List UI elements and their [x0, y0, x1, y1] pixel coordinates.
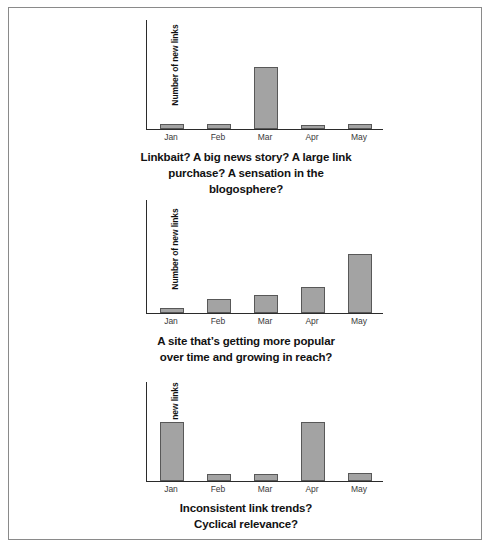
bar-slot-feb [196, 20, 242, 129]
chart-caption-1: Linkbait? A big news story? A large link… [79, 149, 413, 197]
bar-slot-may [337, 200, 383, 313]
x-tick-mar: Mar [242, 132, 288, 142]
bar-slot-mar [243, 382, 289, 481]
bar-feb[interactable] [207, 474, 231, 481]
caption-line: Linkbait? A big news story? A large link [79, 149, 413, 165]
bar-may[interactable] [348, 254, 372, 313]
bar-group [149, 20, 383, 129]
figure-frame: Number of new links Jan Feb Mar Apr May [8, 7, 482, 540]
x-tick-feb: Feb [195, 484, 241, 494]
x-tick-apr: Apr [289, 484, 335, 494]
x-tick-jan: Jan [148, 316, 194, 326]
chart-panel-3: Number of new links Jan Feb Mar Apr May … [9, 376, 483, 539]
bar-chart-1: Number of new links Jan Feb Mar Apr May [9, 12, 483, 140]
x-tick-may: May [336, 132, 382, 142]
chart-panel-2: Number of new links Jan Feb Mar Apr May … [9, 194, 483, 374]
bar-mar[interactable] [254, 67, 278, 129]
caption-line: purchase? A sensation in the [79, 165, 413, 181]
bar-group [149, 200, 383, 313]
chart-panel-1: Number of new links Jan Feb Mar Apr May [9, 12, 483, 190]
x-tick-jan: Jan [148, 484, 194, 494]
bar-mar[interactable] [254, 295, 278, 313]
bar-slot-may [337, 20, 383, 129]
bar-apr[interactable] [301, 125, 325, 129]
bar-slot-mar [243, 20, 289, 129]
bar-jan[interactable] [160, 308, 184, 313]
bar-slot-jan [149, 200, 195, 313]
x-tick-feb: Feb [195, 132, 241, 142]
bar-slot-may [337, 382, 383, 481]
bar-slot-apr [290, 20, 336, 129]
bar-apr[interactable] [301, 287, 325, 313]
bar-chart-2: Number of new links Jan Feb Mar Apr May [9, 194, 483, 324]
x-tick-apr: Apr [289, 316, 335, 326]
chart-caption-3: Inconsistent link trends? Cyclical relev… [79, 500, 413, 532]
x-axis-ticks: Jan Feb Mar Apr May [148, 132, 385, 146]
bar-jan[interactable] [160, 422, 184, 481]
x-tick-mar: Mar [242, 316, 288, 326]
bar-mar[interactable] [254, 474, 278, 481]
bar-feb[interactable] [207, 299, 231, 313]
bar-slot-mar-wrap [149, 20, 195, 129]
x-tick-mar: Mar [242, 484, 288, 494]
chart-caption-2: A site that’s getting more popular over … [79, 333, 413, 365]
plot-area [146, 382, 383, 482]
x-tick-may: May [336, 484, 382, 494]
x-tick-jan: Jan [148, 132, 194, 142]
bar-chart-3: Number of new links Jan Feb Mar Apr May [9, 376, 483, 494]
plot-area [146, 20, 383, 130]
bar-slot-apr [290, 382, 336, 481]
caption-line: Cyclical relevance? [79, 516, 413, 532]
x-axis-ticks: Jan Feb Mar Apr May [148, 484, 385, 498]
caption-line: Inconsistent link trends? [79, 500, 413, 516]
plot-area [146, 200, 383, 314]
bar-may[interactable] [348, 124, 372, 129]
x-axis-ticks: Jan Feb Mar Apr May [148, 316, 385, 330]
bar-group [149, 382, 383, 481]
bar-slot-apr [290, 200, 336, 313]
caption-line: over time and growing in reach? [79, 349, 413, 365]
caption-line: A site that’s getting more popular [79, 333, 413, 349]
bar-slot-jan [149, 382, 195, 481]
x-tick-feb: Feb [195, 316, 241, 326]
bar-slot-feb [196, 200, 242, 313]
bar-slot-feb [196, 382, 242, 481]
bar-feb[interactable] [207, 124, 231, 129]
x-tick-may: May [336, 316, 382, 326]
bar-apr[interactable] [301, 422, 325, 481]
bar-slot-mar [243, 200, 289, 313]
x-tick-apr: Apr [289, 132, 335, 142]
bar-may[interactable] [348, 473, 372, 481]
